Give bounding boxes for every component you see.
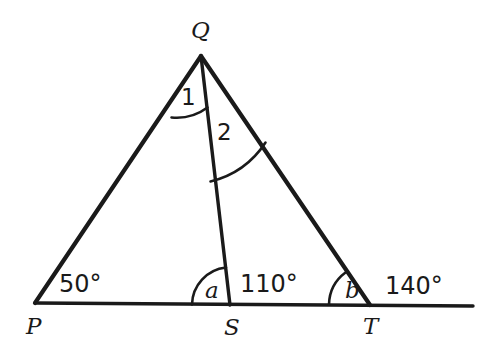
vertex-label-q: Q	[191, 17, 210, 43]
angle-measures: 50° 110° 140°	[59, 270, 443, 300]
angle-label-b: b	[345, 277, 360, 303]
geometry-canvas: Q P S T 1 2 a b 50° 110° 140°	[0, 0, 499, 351]
geometry-figure: Q P S T 1 2 a b 50° 110° 140°	[0, 0, 499, 351]
angle-label-1: 1	[181, 84, 196, 110]
segment-base-pe	[35, 303, 473, 306]
angle-label-a: a	[205, 277, 219, 303]
vertex-label-t: T	[363, 313, 380, 339]
figure-segments	[35, 56, 473, 306]
segment-pq	[35, 56, 201, 303]
arc-angle-2	[211, 143, 266, 182]
vertex-label-s: S	[224, 314, 240, 340]
angle-label-2: 2	[217, 119, 232, 145]
measure-label-140: 140°	[385, 272, 443, 300]
arc-angle-b	[329, 273, 346, 305]
measure-label-110: 110°	[240, 270, 298, 298]
vertex-label-p: P	[25, 313, 42, 339]
measure-label-50: 50°	[59, 270, 102, 298]
